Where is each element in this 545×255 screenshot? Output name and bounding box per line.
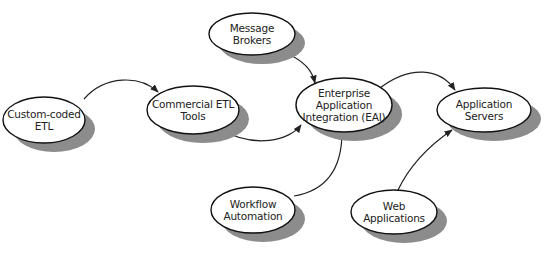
edge-workflow-to-eai xyxy=(294,132,342,196)
node-shape-eai xyxy=(296,78,402,141)
node-ellipse xyxy=(296,78,392,132)
node-shape-workflow-automation xyxy=(211,187,305,242)
node-shape-commercial-etl-tools xyxy=(147,86,249,143)
node-ellipse xyxy=(147,86,239,134)
nodes xyxy=(3,13,541,243)
node-ellipse xyxy=(211,187,295,233)
edge-web-apps-to-app-servers xyxy=(398,130,452,190)
edge-custom-etl-to-commercial-etl xyxy=(84,80,158,99)
diagram-canvas xyxy=(0,0,545,255)
node-shape-application-servers xyxy=(437,88,541,141)
node-ellipse xyxy=(437,88,531,132)
node-shape-web-applications xyxy=(351,190,447,243)
edges xyxy=(84,52,455,196)
node-shape-message-brokers xyxy=(209,13,305,64)
node-ellipse xyxy=(3,97,85,143)
edge-eai-to-app-servers xyxy=(380,72,455,90)
node-ellipse xyxy=(209,13,295,55)
node-ellipse xyxy=(351,190,437,234)
node-shape-custom-coded-etl xyxy=(3,97,95,152)
